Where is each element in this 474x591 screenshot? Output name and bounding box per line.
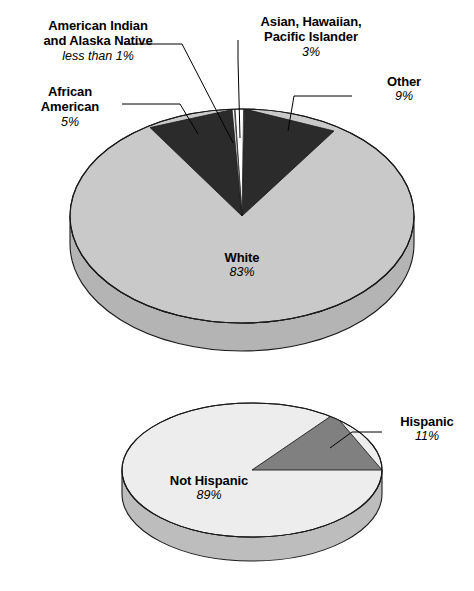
pie-charts-figure: American Indian and Alaska Native less t… (0, 0, 474, 591)
label-not-hispanic: Not Hispanic 89% (141, 473, 277, 503)
label-other-percent: 9% (352, 89, 456, 104)
label-american-indian-and-alaska-native: American Indian and Alaska Native less t… (16, 18, 180, 63)
label-american-indian-line1: American Indian (16, 18, 180, 33)
label-asian-line1: Asian, Hawaiian, (236, 14, 386, 29)
label-african-american-percent: 5% (18, 115, 122, 130)
label-asian-percent: 3% (236, 45, 386, 60)
label-white-line1: White (177, 250, 307, 265)
label-african-american-line2: American (18, 99, 122, 114)
label-other: Other 9% (352, 74, 456, 104)
label-african-american-line1: African (18, 84, 122, 99)
race-pie-top-face (70, 109, 414, 323)
label-american-indian-line2: and Alaska Native (16, 33, 180, 48)
label-hispanic-percent: 11% (382, 429, 472, 444)
label-not-hispanic-percent: 89% (141, 488, 277, 503)
label-asian-hawaiian-pacific-islander: Asian, Hawaiian, Pacific Islander 3% (236, 14, 386, 59)
label-not-hispanic-line1: Not Hispanic (141, 473, 277, 488)
label-hispanic: Hispanic 11% (382, 414, 472, 444)
label-american-indian-percent: less than 1% (16, 49, 180, 64)
label-hispanic-line1: Hispanic (382, 414, 472, 429)
label-white: White 83% (177, 250, 307, 280)
label-other-line1: Other (352, 74, 456, 89)
label-asian-line2: Pacific Islander (236, 29, 386, 44)
ethnicity-pie-top-face (122, 403, 382, 537)
label-white-percent: 83% (177, 265, 307, 280)
label-african-american: African American 5% (18, 84, 122, 129)
